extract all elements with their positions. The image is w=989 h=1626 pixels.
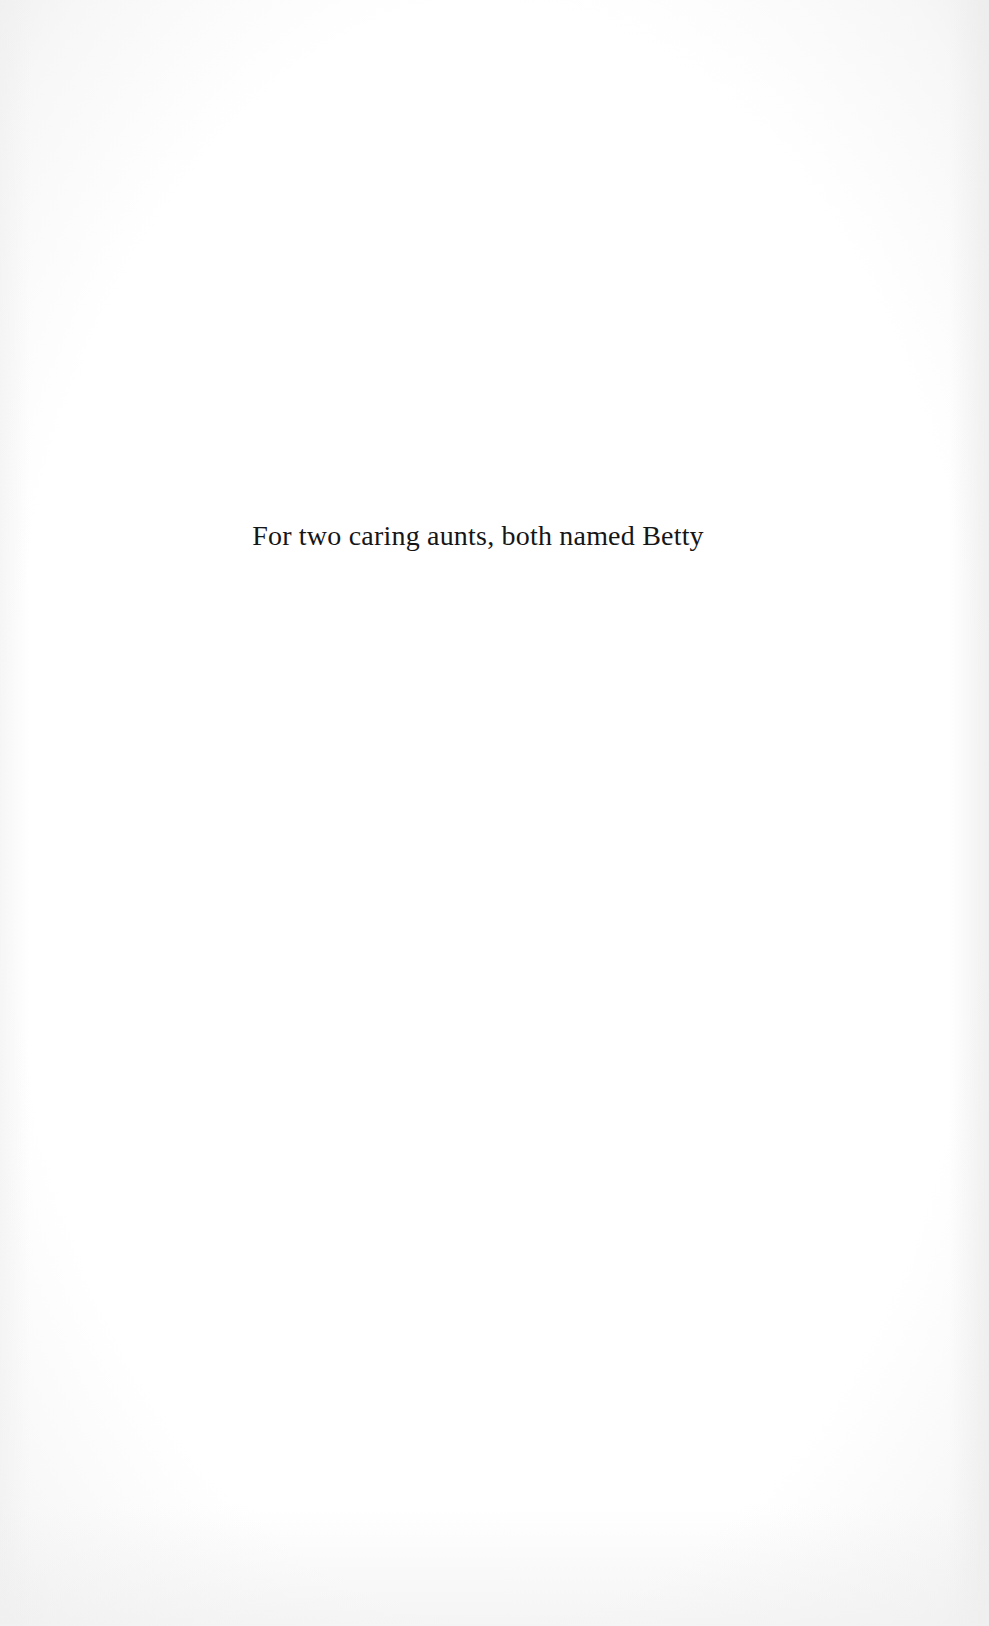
page-edge-shadow-right	[949, 0, 989, 1626]
dedication-text: For two caring aunts, both named Betty	[0, 516, 956, 556]
page-edge-shadow-bottom	[0, 1506, 989, 1626]
page-edge-shadow-left	[0, 0, 30, 1626]
book-page: For two caring aunts, both named Betty	[0, 0, 989, 1626]
